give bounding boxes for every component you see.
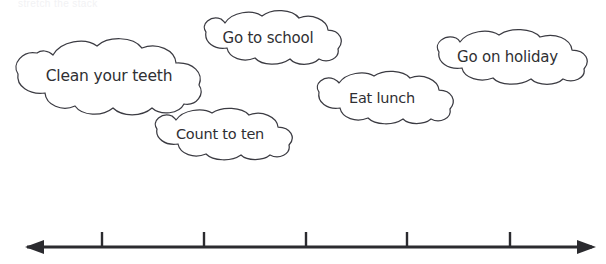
instruction-text-partial: stretch the stack — [18, 0, 168, 7]
cloud-count-to-ten[interactable]: Count to ten — [144, 108, 296, 160]
cloud-go-on-holiday[interactable]: Go on holiday — [424, 29, 591, 84]
cloud-go-to-school[interactable]: Go to school — [192, 10, 344, 65]
arrowhead-left-icon — [25, 240, 44, 254]
worksheet-canvas: stretch the stack Clean your teeth Go to… — [0, 0, 606, 264]
timeline-number-line[interactable] — [0, 222, 606, 264]
number-line-svg — [0, 222, 606, 264]
cloud-shape-icon — [9, 37, 209, 115]
cloud-clean-your-teeth[interactable]: Clean your teeth — [9, 37, 209, 115]
cloud-shape-icon — [192, 10, 344, 65]
cloud-shape-icon — [144, 108, 296, 160]
cloud-shape-icon — [424, 29, 591, 84]
arrowhead-right-icon — [577, 240, 596, 254]
